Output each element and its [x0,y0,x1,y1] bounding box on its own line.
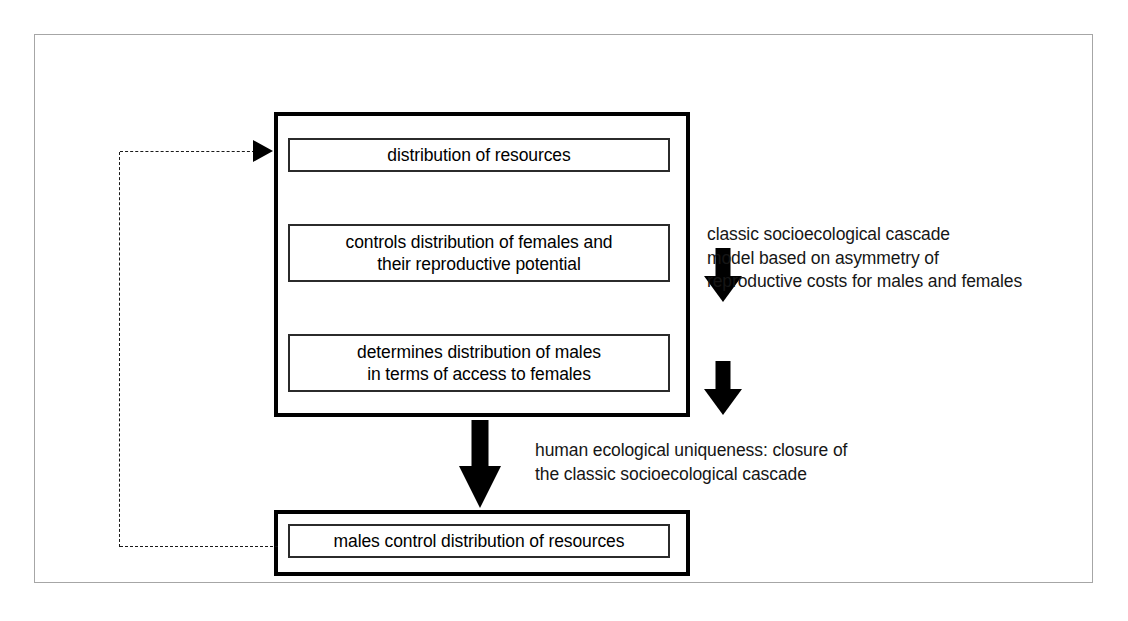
arrow-head [704,389,742,415]
node-controls-distribution-of-females-label: controls distribution of females and the… [340,231,619,276]
socioecological-cascade-container: distribution of resources controls distr… [274,112,690,417]
down-arrow-icon-females-to-males [701,361,745,415]
feedback-loop-top-segment [120,151,255,152]
feedback-loop-left-segment [119,152,120,547]
arrow-head [459,466,501,508]
figure-outer-frame: distribution of resources controls distr… [34,34,1093,583]
arrow-shaft [716,361,731,391]
node-distribution-of-resources: distribution of resources [288,138,670,172]
feedback-loop-arrowhead-icon [253,140,273,162]
node-males-control-distribution-of-resources-label: males control distribution of resources [328,530,631,552]
annotation-classic-cascade: classic socioecological cascade model ba… [707,223,1022,294]
feedback-loop-bottom-segment [120,546,278,547]
node-determines-distribution-of-males-label: determines distribution of males in term… [351,341,607,386]
arrow-shaft [472,420,489,468]
down-arrow-icon-cascade-to-outcome [456,420,504,508]
node-controls-distribution-of-females: controls distribution of females and the… [288,224,670,282]
node-males-control-distribution-of-resources: males control distribution of resources [288,524,670,558]
node-determines-distribution-of-males: determines distribution of males in term… [288,334,670,392]
outcome-container: males control distribution of resources [274,510,690,576]
figure-root: distribution of resources controls distr… [0,0,1128,621]
node-distribution-of-resources-label: distribution of resources [381,144,576,166]
annotation-human-uniqueness: human ecological uniqueness: closure of … [535,439,847,486]
